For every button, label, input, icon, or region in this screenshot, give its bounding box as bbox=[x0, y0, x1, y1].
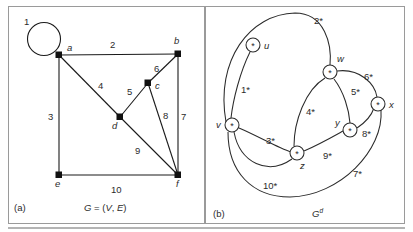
dual-edge-label-10: 10* bbox=[263, 180, 278, 191]
dual-edge-7 bbox=[228, 110, 381, 197]
dual-vertex-w: * bbox=[323, 65, 337, 79]
dual-vertex-label-y: y bbox=[334, 117, 341, 128]
dual-vertex-label-u: u bbox=[264, 40, 270, 51]
asterisk-glyph-u: * bbox=[251, 41, 255, 51]
dual-vertex-label-w: w bbox=[337, 53, 345, 64]
dual-vertex-y: * bbox=[343, 123, 357, 137]
dual-vertex-label-v: v bbox=[216, 119, 222, 130]
asterisk-glyph-y: * bbox=[348, 126, 352, 136]
asterisk-glyph-v: * bbox=[230, 121, 234, 131]
dual-edge-label-7: 7* bbox=[353, 168, 362, 179]
dual-edge-label-3: 3* bbox=[266, 135, 275, 146]
dual-vertex-z: * bbox=[290, 146, 304, 160]
asterisk-glyph-x: * bbox=[376, 100, 380, 110]
dual-edge-9 bbox=[304, 131, 343, 151]
dual-vertex-x: * bbox=[371, 97, 385, 111]
dual-edge-label-4: 4* bbox=[306, 106, 315, 117]
dual-edge-label-1: 1* bbox=[241, 84, 250, 95]
dual-edge-3 bbox=[239, 128, 291, 152]
asterisk-glyph-z: * bbox=[295, 149, 299, 159]
dual-vertex-label-z: z bbox=[299, 160, 305, 171]
dual-edge-label-2: 2* bbox=[314, 15, 323, 26]
bottom-rule bbox=[8, 227, 405, 229]
asterisk-glyph-w: * bbox=[328, 68, 332, 78]
caption-b-sup: d bbox=[319, 207, 323, 214]
panel-b-caption: Gd bbox=[312, 207, 323, 219]
caption-b-g: G bbox=[312, 208, 319, 219]
dual-edge-label-8: 8* bbox=[362, 128, 371, 139]
dual-vertex-label-x: x bbox=[388, 99, 395, 110]
dual-edge-label-9: 9* bbox=[323, 150, 332, 161]
panel-b-graph: * * * * * * u v w x y z 1* 2* 3* bbox=[0, 0, 413, 232]
panel-b-tag: (b) bbox=[213, 208, 225, 219]
dual-edge-label-6: 6* bbox=[364, 71, 373, 82]
figure-container: a b c d e f 1 2 3 4 5 6 7 8 9 10 (a) G =… bbox=[0, 0, 413, 232]
dual-vertex-u: * bbox=[246, 38, 260, 52]
dual-vertex-v: * bbox=[225, 118, 239, 132]
dual-edge-label-5: 5* bbox=[351, 86, 360, 97]
dual-edge-8 bbox=[357, 108, 374, 128]
